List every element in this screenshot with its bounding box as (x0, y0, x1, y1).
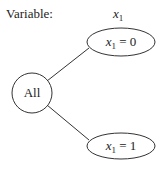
child-node-label: x1 = 0 (105, 34, 137, 51)
root-node: All (12, 73, 52, 113)
variable-name: x1 (112, 6, 123, 23)
child-node-label: x1 = 1 (105, 138, 137, 155)
edge-all-to-x1-1 (47, 105, 89, 140)
child-node-x1-0: x1 = 0 (87, 28, 155, 56)
decision-tree-diagram: Variable: x1 All x1 = 0 x1 = 1 (0, 0, 163, 172)
root-node-label: All (24, 85, 41, 100)
child-node-x1-1: x1 = 1 (87, 133, 155, 159)
variable-label: Variable: (6, 6, 53, 21)
edge-all-to-x1-0 (47, 48, 89, 81)
